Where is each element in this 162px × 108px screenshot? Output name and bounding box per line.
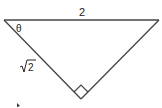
leg-radicand: 2	[28, 62, 34, 73]
cursor-artifact-icon	[17, 103, 20, 107]
right-angle-marker-icon	[74, 85, 88, 92]
leg-label: 2	[20, 60, 36, 73]
right-leg-line	[81, 20, 159, 99]
angle-theta-label: θ	[16, 23, 22, 34]
hypotenuse-label: 2	[79, 6, 85, 18]
triangle-diagram: 2 θ 2	[0, 0, 162, 108]
